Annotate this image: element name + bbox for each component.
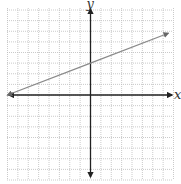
x-axis-label: x [174, 87, 181, 102]
plotted-line [8, 33, 169, 95]
axes [9, 9, 172, 177]
y-axis-label: y [86, 0, 95, 11]
coordinate-plane: x y [0, 0, 181, 184]
series-line [8, 33, 169, 95]
